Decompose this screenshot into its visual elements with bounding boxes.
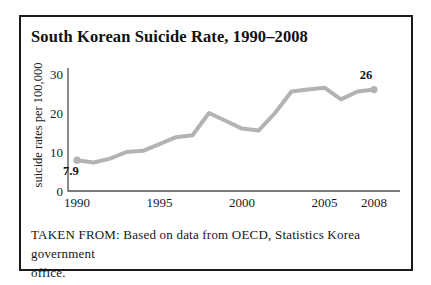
suicide-rate-line bbox=[77, 88, 374, 163]
x-tick-label: 2005 bbox=[312, 195, 338, 210]
x-tick-label: 1995 bbox=[147, 195, 173, 210]
figure-panel: South Korean Suicide Rate, 1990–2008 sui… bbox=[19, 15, 413, 271]
x-tick-label: 2000 bbox=[229, 195, 255, 210]
x-tick-label: 1990 bbox=[64, 195, 90, 210]
y-axis-label: suicide rates per 100,000 bbox=[31, 55, 45, 195]
axes bbox=[68, 68, 400, 191]
y-tick-label: 30 bbox=[50, 67, 63, 82]
x-tick-label: 2008 bbox=[361, 195, 387, 210]
scan-page: South Korean Suicide Rate, 1990–2008 sui… bbox=[0, 0, 431, 285]
data-point-marker bbox=[370, 86, 377, 93]
caption-line-2: office. bbox=[31, 265, 66, 280]
line-chart: 0102030199019952000200520087.926 bbox=[50, 58, 410, 210]
y-tick-label: 10 bbox=[50, 145, 63, 160]
point-value-label: 7.9 bbox=[63, 164, 79, 178]
data-point-marker bbox=[73, 157, 80, 164]
source-caption: TAKEN FROM: Based on data from OECD, Sta… bbox=[31, 225, 411, 282]
point-value-label: 26 bbox=[360, 68, 373, 82]
y-tick-label: 0 bbox=[57, 184, 64, 199]
caption-line-1: TAKEN FROM: Based on data from OECD, Sta… bbox=[31, 227, 360, 261]
chart-title: South Korean Suicide Rate, 1990–2008 bbox=[31, 27, 308, 47]
y-tick-label: 20 bbox=[50, 106, 63, 121]
